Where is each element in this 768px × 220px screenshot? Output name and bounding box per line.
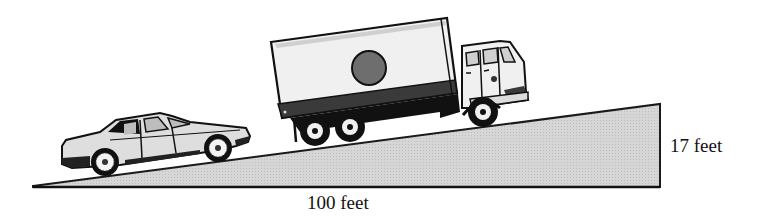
incline-diagram <box>0 0 768 220</box>
car-front-wheel <box>204 134 232 162</box>
truck-front-wheel <box>468 97 498 127</box>
base-length-label: 100 feet <box>307 193 369 212</box>
height-label: 17 feet <box>670 136 722 155</box>
car-rear-wheel <box>91 148 119 176</box>
truck-rear-wheel-1 <box>300 116 330 146</box>
truck-rear-wheel-2 <box>335 112 365 142</box>
truck-emblem-circle <box>352 51 386 85</box>
